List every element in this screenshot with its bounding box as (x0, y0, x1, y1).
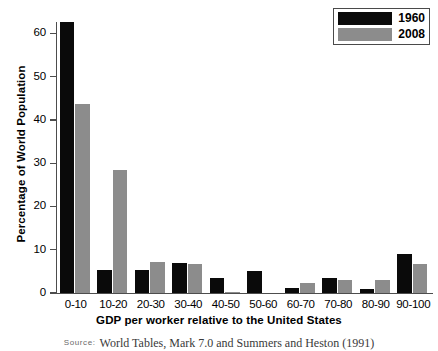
y-tick-label-60: 60 (6, 27, 46, 39)
caption-source-label: Source: (64, 338, 96, 347)
bar-10-20-1960 (97, 270, 112, 293)
bar-30-40-1960 (172, 263, 187, 293)
bar-40-50-2008 (225, 292, 240, 293)
bar-60-70-2008 (300, 283, 315, 293)
x-axis-line (56, 293, 433, 294)
plot-area (57, 22, 432, 293)
bar-10-20-2008 (113, 170, 128, 293)
legend-item-1960: 1960 (338, 12, 425, 25)
legend-label-1960: 1960 (398, 12, 425, 25)
x-tick-label-90-100: 90-100 (389, 298, 438, 310)
bar-80-90-2008 (375, 280, 390, 293)
y-tick-60 (50, 33, 56, 34)
bar-90-100-1960 (397, 254, 412, 293)
y-tick-label-0: 0 (6, 287, 46, 299)
legend-label-2008: 2008 (398, 28, 425, 41)
bar-70-80-1960 (322, 278, 337, 293)
y-tick-20 (50, 206, 56, 207)
bar-40-50-1960 (210, 278, 225, 293)
bar-60-70-1960 (285, 288, 300, 293)
bar-20-30-2008 (150, 262, 165, 293)
bar-30-40-2008 (188, 264, 203, 293)
y-tick-30 (50, 163, 56, 164)
legend-item-2008: 2008 (338, 28, 425, 41)
y-tick-40 (50, 119, 56, 120)
bar-90-100-2008 (413, 264, 428, 293)
figure-source-caption: Source:World Tables, Mark 7.0 and Summer… (0, 336, 438, 351)
bar-80-90-1960 (360, 289, 375, 293)
bar-50-60-1960 (247, 271, 262, 293)
y-tick-50 (50, 76, 56, 77)
legend-swatch-2008 (338, 28, 392, 41)
y-tick-10 (50, 249, 56, 250)
y-axis-title: Percentage of World Population (15, 49, 27, 259)
bar-0-10-2008 (75, 104, 90, 293)
chart-legend: 1960 2008 (333, 8, 430, 45)
x-axis-title: GDP per worker relative to the United St… (0, 314, 438, 326)
bar-70-80-2008 (338, 280, 353, 293)
caption-text: World Tables, Mark 7.0 and Summers and H… (100, 336, 375, 350)
legend-swatch-1960 (338, 12, 392, 25)
bar-20-30-1960 (135, 270, 150, 293)
y-tick-0 (50, 292, 56, 293)
bar-0-10-1960 (60, 22, 75, 293)
